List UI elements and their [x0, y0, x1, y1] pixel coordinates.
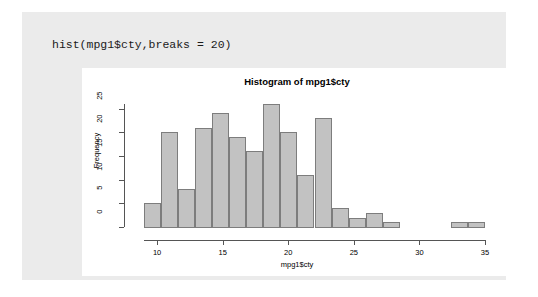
- histogram-bar: [451, 222, 468, 228]
- x-tick-mark: [223, 240, 224, 245]
- console-panel: hist(mpg1$cty,breaks = 20) Histogram of …: [22, 12, 506, 280]
- histogram-bar: [229, 137, 246, 228]
- histogram-bar: [349, 218, 366, 228]
- chart-title: Histogram of mpg1$cty: [82, 76, 512, 87]
- x-axis-title: mpg1$cty: [82, 260, 512, 269]
- x-tick-label: 30: [407, 248, 431, 257]
- histogram-bar: [178, 189, 195, 228]
- x-tick-label: 35: [473, 248, 497, 257]
- histogram-plot: Histogram of mpg1$cty Frequency mpg1$cty…: [82, 68, 512, 276]
- screenshot-root: hist(mpg1$cty,breaks = 20) Histogram of …: [0, 0, 538, 297]
- x-axis-line: [144, 240, 485, 241]
- histogram-bar: [315, 118, 332, 228]
- y-tick-mark: [119, 109, 124, 110]
- histogram-bar: [468, 222, 485, 228]
- y-tick-mark: [119, 132, 124, 133]
- histogram-bar: [144, 203, 161, 228]
- y-tick-label: 10: [95, 162, 104, 184]
- y-tick-mark: [119, 180, 124, 181]
- x-tick-mark: [485, 240, 486, 245]
- histogram-bar: [280, 132, 297, 228]
- histogram-bar: [195, 128, 212, 228]
- x-tick-mark: [419, 240, 420, 245]
- y-tick-label: 0: [95, 210, 104, 232]
- x-tick-label: 15: [211, 248, 235, 257]
- y-tick-mark: [119, 156, 124, 157]
- y-tick-label: 25: [95, 91, 104, 113]
- x-tick-label: 20: [276, 248, 300, 257]
- y-tick-mark: [119, 203, 124, 204]
- histogram-bar: [263, 104, 280, 228]
- y-tick-label: 5: [95, 186, 104, 208]
- y-tick-label: 15: [95, 139, 104, 161]
- x-tick-mark: [157, 240, 158, 245]
- plot-window: Histogram of mpg1$cty Frequency mpg1$cty…: [82, 68, 512, 276]
- x-tick-label: 10: [145, 248, 169, 257]
- histogram-bar: [246, 151, 263, 228]
- histogram-bar: [366, 213, 383, 228]
- histogram-bar: [297, 175, 314, 228]
- histogram-bar: [383, 222, 400, 228]
- y-axis-line: [124, 104, 125, 227]
- y-tick-mark: [119, 227, 124, 228]
- x-tick-mark: [354, 240, 355, 245]
- histogram-bar: [332, 208, 349, 228]
- r-command-text: hist(mpg1$cty,breaks = 20): [52, 38, 231, 51]
- x-tick-mark: [288, 240, 289, 245]
- histogram-bar: [161, 132, 178, 228]
- y-tick-label: 20: [95, 115, 104, 137]
- histogram-bar: [212, 113, 229, 228]
- x-tick-label: 25: [342, 248, 366, 257]
